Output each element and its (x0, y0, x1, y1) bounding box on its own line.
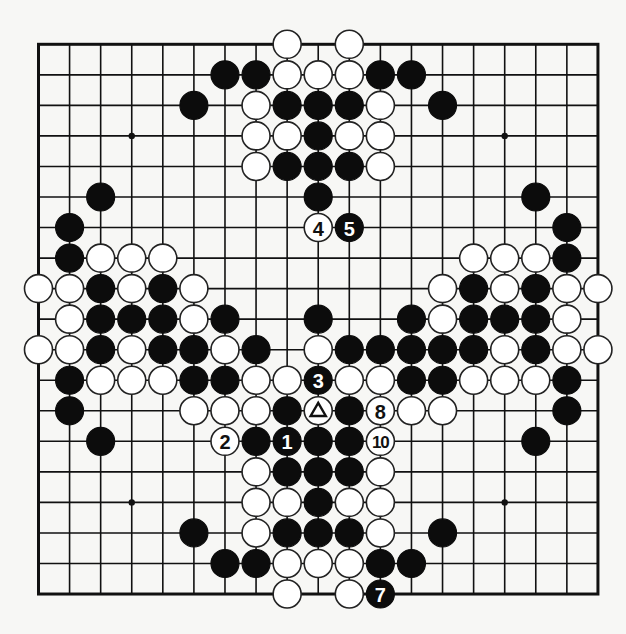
white-stone (584, 275, 612, 303)
stone-disc (242, 458, 270, 486)
black-stone (522, 275, 550, 303)
stone-disc (335, 580, 363, 608)
white-stone (56, 305, 84, 333)
black-stone (460, 275, 488, 303)
white-stone (25, 336, 53, 364)
white-stone (273, 122, 301, 150)
stone-disc (522, 183, 550, 211)
stone-disc (87, 336, 115, 364)
stone-disc (397, 366, 425, 394)
stone-disc (522, 336, 550, 364)
stone-disc (335, 91, 363, 119)
white-stone (584, 336, 612, 364)
go-board[interactable]: 453821107 (0, 0, 626, 634)
white-stone (118, 366, 146, 394)
stone-disc (242, 427, 270, 455)
black-stone (335, 458, 363, 486)
black-stone (553, 244, 581, 272)
black-stone (149, 336, 177, 364)
stone-disc (180, 397, 208, 425)
white-stone (460, 244, 488, 272)
white-stone (553, 305, 581, 333)
stone-disc (429, 275, 457, 303)
white-stone (56, 275, 84, 303)
black-stone (335, 336, 363, 364)
white-stone (118, 244, 146, 272)
white-stone (553, 275, 581, 303)
white-stone (242, 458, 270, 486)
stone-disc (211, 305, 239, 333)
white-stone (460, 366, 488, 394)
white-stone (242, 122, 270, 150)
white-stone (335, 580, 363, 608)
white-stone (273, 366, 301, 394)
stone-disc (553, 397, 581, 425)
white-stone (211, 336, 239, 364)
white-stone (242, 488, 270, 516)
stone-disc (211, 61, 239, 89)
white-stone (118, 336, 146, 364)
black-stone (304, 519, 332, 547)
black-stone (242, 61, 270, 89)
stone-disc (242, 61, 270, 89)
white-stone: 2 (211, 427, 239, 455)
star-point (129, 133, 135, 139)
stone-disc (242, 519, 270, 547)
stone-disc (56, 275, 84, 303)
white-stone: 4 (304, 214, 332, 242)
stone-disc (335, 549, 363, 577)
stone-disc (304, 427, 332, 455)
white-stone (366, 519, 394, 547)
white-stone (366, 152, 394, 180)
stone-disc (242, 122, 270, 150)
stone-disc (242, 336, 270, 364)
white-stone (429, 397, 457, 425)
stone-disc (118, 336, 146, 364)
stone-disc (491, 275, 519, 303)
stone-disc (242, 488, 270, 516)
stone-disc (242, 397, 270, 425)
black-stone (553, 214, 581, 242)
white-stone (180, 397, 208, 425)
white-stone (87, 244, 115, 272)
stone-disc (149, 244, 177, 272)
white-stone (56, 336, 84, 364)
black-stone (242, 549, 270, 577)
stone-disc (522, 244, 550, 272)
go-board-canvas[interactable]: 453821107 (0, 0, 626, 634)
stone-disc (118, 244, 146, 272)
stone-disc (211, 336, 239, 364)
stone-disc (553, 336, 581, 364)
stone-disc (180, 305, 208, 333)
white-stone (273, 488, 301, 516)
stone-disc (304, 91, 332, 119)
stone-disc (87, 183, 115, 211)
white-stone (553, 336, 581, 364)
black-stone (429, 366, 457, 394)
stone-disc (211, 397, 239, 425)
stone-disc (25, 275, 53, 303)
stone-disc (522, 305, 550, 333)
stone-disc (180, 91, 208, 119)
white-stone (304, 336, 332, 364)
black-stone (273, 152, 301, 180)
move-number-label: 4 (313, 218, 325, 240)
stone-disc (56, 214, 84, 242)
black-stone (304, 488, 332, 516)
black-stone (397, 366, 425, 394)
stone-disc (242, 91, 270, 119)
black-stone (366, 61, 394, 89)
stone-disc (335, 397, 363, 425)
white-stone (335, 366, 363, 394)
white-stone (335, 30, 363, 58)
stone-disc (460, 336, 488, 364)
stone-disc (273, 458, 301, 486)
white-stone (366, 91, 394, 119)
stone-disc (180, 336, 208, 364)
stone-disc (366, 91, 394, 119)
white-stone (118, 275, 146, 303)
white-stone (273, 30, 301, 58)
white-stone (211, 397, 239, 425)
stone-disc (304, 305, 332, 333)
white-stone (335, 488, 363, 516)
